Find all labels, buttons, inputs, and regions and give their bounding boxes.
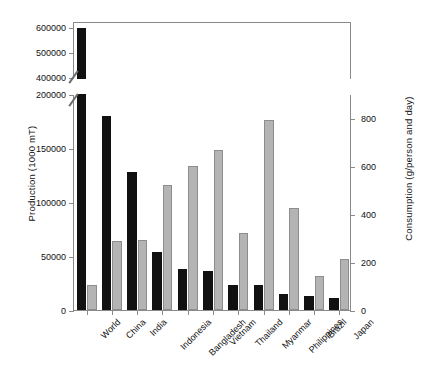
bar-consumption-philippines (289, 208, 299, 310)
x-category-label-india: India (148, 317, 169, 338)
y-tick-right (350, 167, 355, 168)
lower-plot-panel: 050000100000150000200000 0200400600800 (73, 95, 351, 311)
y-ticklabel-left: 0 (16, 307, 66, 316)
bar-consumption-myanmar (264, 120, 274, 310)
y-tick-upper (69, 28, 74, 29)
y-ticklabel-left: 200000 (16, 91, 66, 100)
bar-production-vietnam (203, 271, 213, 310)
bar-consumption-china (112, 241, 122, 310)
bar-consumption-world (87, 285, 97, 310)
x-category-label-indonesia: Indonesia (179, 317, 214, 352)
y-tick-right (350, 263, 355, 264)
bar-production-india (127, 172, 137, 310)
y-tick-upper (69, 53, 74, 54)
bar-consumption-india (138, 240, 148, 310)
y-ticklabel-right: 600 (361, 163, 401, 172)
chart-container: Production (1000 mT) Consumption (g/pers… (0, 0, 421, 368)
bar-consumption-japan (340, 259, 350, 310)
bar-consumption-indonesia (163, 185, 173, 310)
y-tick-right (350, 119, 355, 120)
y-axis-right-title: Consumption (g/person and day) (403, 74, 414, 264)
x-category-label-japan: Japan (352, 317, 376, 341)
y-tick-left (69, 257, 74, 258)
y-ticklabel-left: 150000 (16, 145, 66, 154)
y-ticklabel-right: 800 (361, 115, 401, 124)
x-category-label-china: China (124, 317, 148, 341)
y-axis-left-title: Production (1000 mT) (26, 89, 37, 259)
bar-consumption-bangladesh (188, 166, 198, 310)
bar-production-world (77, 94, 87, 310)
y-tick-left (69, 95, 74, 96)
bar-production-japan (329, 298, 339, 310)
y-ticklabel-left: 50000 (16, 253, 66, 262)
y-tick-right (350, 215, 355, 216)
bar-consumption-thailand (239, 233, 249, 310)
y-tick-left (69, 149, 74, 150)
y-ticklabel-upper: 600000 (16, 23, 66, 32)
bar-production-indonesia (152, 252, 162, 310)
y-ticklabel-right: 200 (361, 259, 401, 268)
y-ticklabel-left: 100000 (16, 199, 66, 208)
bar-production-bangladesh (178, 269, 188, 310)
bar-production-china (102, 116, 112, 310)
y-ticklabel-upper: 400000 (16, 73, 66, 82)
upper-plot-panel: 400000500000600000 (73, 22, 351, 79)
x-category-label-world: World (98, 317, 122, 341)
y-tick-left (69, 203, 74, 204)
bar-production-philippines (279, 294, 289, 310)
bar-production-brazil (304, 296, 314, 310)
bar-consumption-vietnam (214, 150, 224, 310)
bar-production-myanmar (254, 285, 264, 310)
bar-consumption-brazil (315, 276, 325, 310)
y-ticklabel-right: 0 (361, 307, 401, 316)
x-category-label-brazil: Brazil (326, 317, 349, 340)
x-axis-category-labels: WorldChinaIndiaIndonesiaBangladeshVietna… (73, 311, 351, 368)
bar-production-thailand (228, 285, 238, 310)
y-ticklabel-right: 400 (361, 211, 401, 220)
y-ticklabel-upper: 500000 (16, 48, 66, 57)
